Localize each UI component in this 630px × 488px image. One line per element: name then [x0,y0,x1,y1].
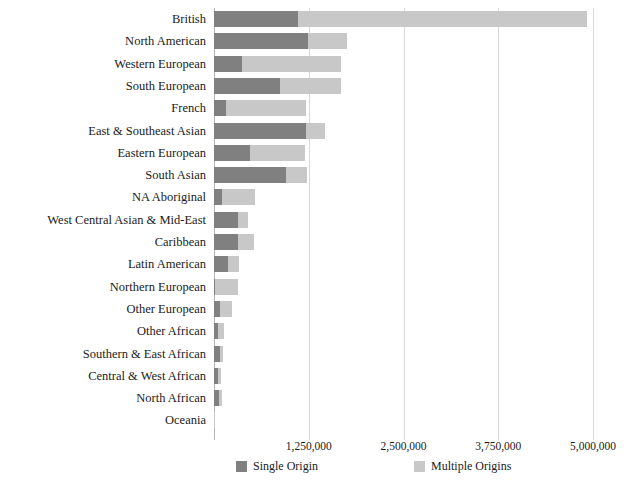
bar-segment-multiple-origins[interactable] [242,56,341,72]
bar-segment-multiple-origins[interactable] [220,301,232,317]
bar-track [214,234,254,250]
bar-segment-multiple-origins[interactable] [298,11,587,27]
bar-row[interactable] [214,120,593,142]
bar-segment-multiple-origins[interactable] [219,390,222,406]
bar-row[interactable] [214,231,593,253]
bar-segment-multiple-origins[interactable] [222,189,255,205]
bar-segment-single-origin[interactable] [214,78,280,94]
bar-segment-multiple-origins[interactable] [226,100,306,116]
x-tick-label: 2,500,000 [381,440,427,452]
bar-row[interactable] [214,186,593,208]
bar-track [214,323,224,339]
bar-track [214,390,222,406]
bar-segment-single-origin[interactable] [214,189,222,205]
bar-segment-single-origin[interactable] [214,11,298,27]
bar-track [214,78,341,94]
bar-segment-multiple-origins[interactable] [308,33,347,49]
bar-segment-single-origin[interactable] [214,212,238,228]
category-label: NA Aboriginal [0,186,206,208]
category-label: Caribbean [0,231,206,253]
bar-segment-multiple-origins[interactable] [306,123,325,139]
bar-track [214,145,305,161]
x-tick-label: 3,750,000 [475,440,521,452]
category-label: North African [0,387,206,409]
bar-segment-single-origin[interactable] [214,256,228,272]
category-label: British [0,8,206,30]
category-label: South European [0,75,206,97]
bar-track [214,256,239,272]
bar-track [214,189,255,205]
bar-track [214,56,341,72]
bar-track [214,123,325,139]
bar-segment-single-origin[interactable] [214,33,308,49]
bar-track [214,33,347,49]
bar-row[interactable] [214,8,593,30]
bar-segment-single-origin[interactable] [214,167,286,183]
bar-row[interactable] [214,164,593,186]
bar-segment-multiple-origins[interactable] [238,212,248,228]
bar-segment-single-origin[interactable] [214,145,250,161]
category-label: Other European [0,298,206,320]
category-label: Northern European [0,276,206,298]
bar-row[interactable] [214,253,593,275]
legend-item-multiple-origins[interactable]: Multiple Origins [414,459,511,473]
category-label: West Central Asian & Mid-East [0,209,206,231]
legend-swatch-icon [236,461,247,472]
category-label: Eastern European [0,142,206,164]
bar-segment-multiple-origins[interactable] [220,346,223,362]
bar-row[interactable] [214,320,593,342]
bar-segment-multiple-origins[interactable] [286,167,307,183]
bar-row[interactable] [214,409,593,431]
bar-track [214,212,248,228]
bar-segment-multiple-origins[interactable] [218,368,221,384]
bar-track [214,279,238,295]
category-label: Latin American [0,253,206,275]
category-label: French [0,97,206,119]
legend-item-single-origin[interactable]: Single Origin [236,459,318,473]
bar-track [214,11,587,27]
bar-track [214,167,307,183]
x-axis-tick-labels: 1,250,0002,500,0003,750,0005,000,000 [0,440,630,460]
bar-track [214,100,306,116]
bar-segment-multiple-origins[interactable] [228,256,239,272]
bar-track [214,346,223,362]
bar-row[interactable] [214,53,593,75]
bar-track [214,412,215,428]
legend-swatch-icon [414,461,425,472]
bar-row[interactable] [214,30,593,52]
bar-row[interactable] [214,365,593,387]
category-label: Central & West African [0,365,206,387]
bar-segment-multiple-origins[interactable] [250,145,305,161]
category-label: South Asian [0,164,206,186]
legend-label: Multiple Origins [431,459,511,473]
bar-track [214,301,232,317]
ethnic-origin-stacked-bar-chart: BritishNorth AmericanWestern EuropeanSou… [0,0,630,488]
x-tick-label: 5,000,000 [570,440,616,452]
bar-segment-single-origin[interactable] [214,123,306,139]
bar-segment-single-origin[interactable] [214,234,238,250]
category-label: Oceania [0,409,206,431]
bar-segment-multiple-origins[interactable] [280,78,341,94]
bar-row[interactable] [214,298,593,320]
bar-segment-single-origin[interactable] [214,56,242,72]
bar-row[interactable] [214,75,593,97]
bar-segment-single-origin[interactable] [214,100,226,116]
bar-row[interactable] [214,343,593,365]
category-label: East & Southeast Asian [0,120,206,142]
bar-row[interactable] [214,142,593,164]
bar-segment-multiple-origins[interactable] [218,323,224,339]
x-tick-label: 1,250,000 [286,440,332,452]
chart-legend: Single OriginMultiple Origins [0,459,630,479]
category-label: Western European [0,53,206,75]
bar-segment-multiple-origins[interactable] [215,279,238,295]
category-label: Other African [0,320,206,342]
bar-row[interactable] [214,276,593,298]
legend-label: Single Origin [253,459,318,473]
bar-row[interactable] [214,97,593,119]
category-label: Southern & East African [0,343,206,365]
bar-row[interactable] [214,387,593,409]
bar-track [214,368,221,384]
bar-row[interactable] [214,209,593,231]
bar-segment-multiple-origins[interactable] [238,234,254,250]
category-label: North American [0,30,206,52]
